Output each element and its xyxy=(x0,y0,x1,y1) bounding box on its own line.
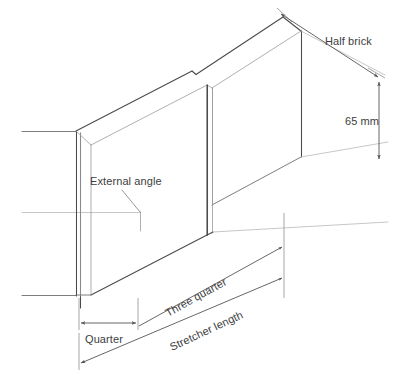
quarter-label: Quarter xyxy=(85,333,123,345)
quarter-end-face xyxy=(76,131,91,295)
brick-height-label: 65 mm xyxy=(345,115,379,127)
external-angle-label: External angle xyxy=(90,175,162,187)
brick-diagram-canvas: Half brick 65 mm External angle Quarter … xyxy=(0,0,409,384)
dimension-stretcher-length: Stretcher length xyxy=(79,278,282,370)
dimension-brick-height: 65 mm xyxy=(345,82,379,159)
stretcher-length-label: Stretcher length xyxy=(168,308,245,352)
half-brick-label: Half brick xyxy=(325,35,372,47)
course-line-lower-right xyxy=(301,142,388,157)
half-brick-front-face xyxy=(283,17,301,157)
brick-isometric-drawing: Half brick 65 mm External angle Quarter … xyxy=(0,0,409,384)
hb-bottom-edge xyxy=(212,157,301,205)
three-quarter-label: Three quarter xyxy=(163,275,228,319)
brick-bodies xyxy=(76,17,301,295)
stretcher-dim-line xyxy=(81,278,282,363)
dimension-quarter: Quarter xyxy=(79,298,138,345)
course-line-bottom-right xyxy=(213,222,388,232)
